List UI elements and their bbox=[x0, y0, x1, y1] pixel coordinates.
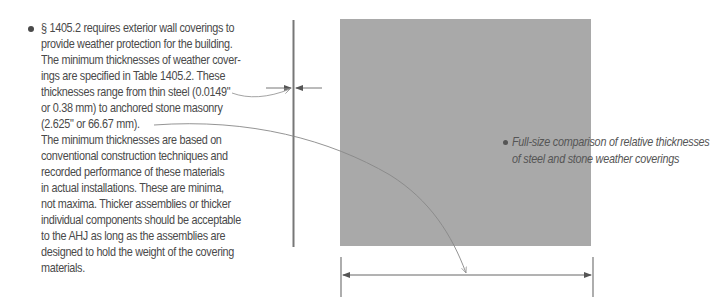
steel-leader-line bbox=[232, 89, 290, 97]
diagram-lines bbox=[0, 0, 726, 306]
stone-leader-line bbox=[154, 124, 466, 273]
